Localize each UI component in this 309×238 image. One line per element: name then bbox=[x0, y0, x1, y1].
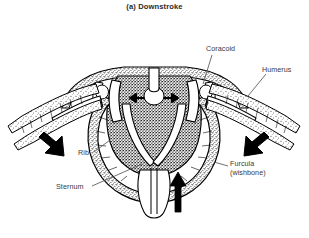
label-furcula-line2: (wishbone) bbox=[230, 168, 266, 177]
label-humerus: Humerus bbox=[262, 66, 292, 75]
downstroke-arrow-left-icon bbox=[39, 132, 64, 156]
skeleton-illustration bbox=[0, 0, 309, 238]
sternum-plate bbox=[138, 170, 170, 218]
torso-group bbox=[8, 55, 300, 218]
label-sternum: Sternum bbox=[56, 183, 84, 192]
figure-downstroke: (a) Downstroke bbox=[0, 0, 309, 238]
spinous-process bbox=[149, 68, 159, 92]
downstroke-arrow-right-icon bbox=[244, 132, 269, 156]
label-coracoid: Coracoid bbox=[206, 45, 235, 54]
leader-line-furcula bbox=[214, 162, 228, 166]
label-furcula: Furcula(wishbone) bbox=[230, 160, 266, 177]
label-rib: Rib bbox=[78, 149, 89, 158]
leader-line-humerus bbox=[248, 74, 266, 96]
